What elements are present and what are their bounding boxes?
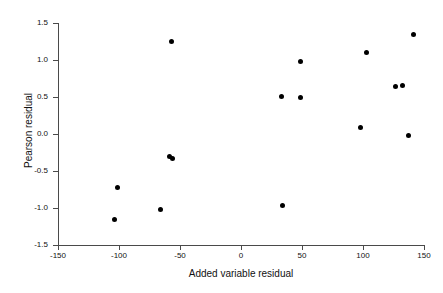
data-point: [112, 217, 117, 222]
x-tick-label: -100: [99, 252, 139, 260]
x-tick-label: -150: [38, 252, 78, 260]
data-point: [298, 59, 303, 64]
x-tick-mark: [302, 245, 303, 250]
scatter-plot-figure: -1.5-1.0-0.50.00.51.01.5 -150-100-500501…: [0, 0, 443, 293]
data-point: [358, 125, 363, 130]
x-tick-mark: [180, 245, 181, 250]
data-point: [406, 133, 411, 138]
x-tick-mark: [119, 245, 120, 250]
data-point: [280, 203, 285, 208]
x-tick-label: 50: [282, 252, 322, 260]
x-tick-mark: [58, 245, 59, 250]
data-point: [411, 32, 416, 37]
x-tick-mark: [363, 245, 364, 250]
x-axis-title: Added variable residual: [58, 268, 424, 279]
data-point: [115, 185, 120, 190]
data-point: [158, 207, 163, 212]
y-tick-label: 1.5: [14, 19, 48, 27]
data-point: [169, 39, 174, 44]
x-tick-label: 100: [343, 252, 383, 260]
x-tick-mark: [424, 245, 425, 250]
x-tick-label: -50: [160, 252, 200, 260]
data-point: [279, 94, 284, 99]
data-point: [400, 83, 405, 88]
x-tick-mark: [241, 245, 242, 250]
plot-area: [58, 23, 424, 245]
data-point: [170, 156, 175, 161]
data-point: [393, 84, 398, 89]
x-tick-label: 0: [221, 252, 261, 260]
data-point: [298, 95, 303, 100]
y-axis-title: Pearson residual: [23, 41, 34, 221]
y-tick-label: -1.5: [14, 241, 48, 249]
data-point: [364, 50, 369, 55]
x-tick-label: 150: [404, 252, 443, 260]
